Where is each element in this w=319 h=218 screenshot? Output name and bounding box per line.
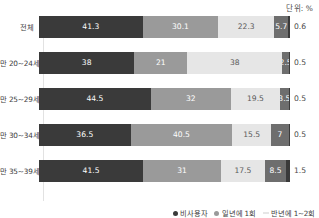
bar-row: 전체41.330.122.35.70.6 — [0, 16, 319, 38]
segment-value: 17.5 — [234, 160, 251, 182]
segment-value: 15.5 — [243, 124, 260, 146]
legend-swatch-icon — [173, 211, 178, 216]
segment-value: 19.5 — [247, 88, 264, 110]
legend-swatch-icon — [263, 212, 269, 214]
segment-value: 40.5 — [173, 124, 190, 146]
bar-segment: 8.5 — [265, 160, 286, 182]
category-label: 만 25~29세 — [0, 95, 39, 104]
segment-value: 30.1 — [172, 16, 189, 38]
segment-value: 38 — [230, 52, 240, 74]
bar-segment: 41.3 — [39, 16, 143, 38]
bar-segment: 38 — [39, 52, 134, 74]
segment-value: 5.7 — [275, 16, 287, 38]
segment-value: 41.3 — [82, 16, 99, 38]
bar-segment — [288, 16, 290, 38]
segment-value: 3.5 — [280, 88, 289, 110]
plot-area: 전체41.330.122.35.70.6만 20~24세3821382.50.5… — [0, 16, 319, 201]
legend-label: 일년에 1회 — [222, 208, 256, 218]
legend-item[interactable]: 비사용자 — [173, 208, 208, 218]
segment-outside-value: 0.5 — [294, 52, 306, 74]
bar-segment: 5.7 — [274, 16, 288, 38]
bar-segment: 3.5 — [280, 88, 289, 110]
category-label: 만 30~34세 — [0, 131, 39, 140]
segment-value: 32 — [186, 88, 196, 110]
bar-segment: 15.5 — [232, 124, 271, 146]
bar-segment — [289, 88, 291, 110]
chart-legend: 비사용자일년에 1회반년에 1~2회 — [0, 208, 319, 218]
legend-item[interactable]: 일년에 1회 — [214, 208, 255, 218]
category-label: 만 20~24세 — [0, 59, 39, 68]
bar-row: 만 30~34세36.540.515.570.5 — [0, 124, 319, 146]
category-label: 전체 — [0, 23, 39, 32]
segment-value: 41.5 — [83, 160, 100, 182]
bar-segment: 44.5 — [39, 88, 151, 110]
segment-outside-value: 0.5 — [294, 88, 306, 110]
segment-value: 8.5 — [270, 160, 282, 182]
bar-segment: 17.5 — [221, 160, 265, 182]
bar-segment: 22.3 — [218, 16, 274, 38]
bar-segment: 38 — [187, 52, 282, 74]
bar-segment — [289, 124, 291, 146]
bar-segment — [286, 160, 290, 182]
category-label: 만 35~39세 — [0, 167, 39, 176]
segment-value: 38 — [82, 52, 92, 74]
bar-segment: 30.1 — [143, 16, 219, 38]
bar-segment: 31 — [143, 160, 221, 182]
segment-value: 21 — [156, 52, 166, 74]
segment-value: 7 — [278, 124, 283, 146]
bar-row: 만 25~29세44.53219.53.50.5 — [0, 88, 319, 110]
bar-segment: 7 — [271, 124, 289, 146]
segment-value: 22.3 — [238, 16, 255, 38]
bar-segment: 21 — [134, 52, 187, 74]
bar-rows: 전체41.330.122.35.70.6만 20~24세3821382.50.5… — [0, 16, 319, 196]
bar-segment: 40.5 — [131, 124, 233, 146]
legend-swatch-icon — [214, 211, 219, 216]
bar-track: 41.53117.58.5 — [39, 160, 290, 182]
bar-row: 만 20~24세3821382.50.5 — [0, 52, 319, 74]
bar-segment: 32 — [151, 88, 231, 110]
segment-outside-value: 1.5 — [294, 160, 306, 182]
segment-outside-value: 0.6 — [294, 16, 306, 38]
segment-value: 44.5 — [86, 88, 103, 110]
stacked-bar-chart: 단위: % 전체41.330.122.35.70.6만 20~24세382138… — [0, 0, 319, 218]
bar-track: 44.53219.53.5 — [39, 88, 290, 110]
bar-track: 41.330.122.35.7 — [39, 16, 290, 38]
segment-value: 36.5 — [76, 124, 93, 146]
unit-caption: 단위: % — [286, 2, 313, 13]
segment-outside-value: 0.5 — [294, 124, 306, 146]
legend-item[interactable]: 반년에 1~2회 — [263, 208, 315, 218]
bar-segment — [289, 52, 291, 74]
bar-row: 만 35~39세41.53117.58.51.5 — [0, 160, 319, 182]
bar-segment: 36.5 — [39, 124, 131, 146]
legend-label: 비사용자 — [180, 208, 207, 218]
segment-value: 31 — [177, 160, 187, 182]
bar-track: 3821382.5 — [39, 52, 290, 74]
bar-segment: 41.5 — [39, 160, 143, 182]
bar-segment: 19.5 — [231, 88, 280, 110]
legend-label: 반년에 1~2회 — [271, 208, 315, 218]
bar-track: 36.540.515.57 — [39, 124, 290, 146]
